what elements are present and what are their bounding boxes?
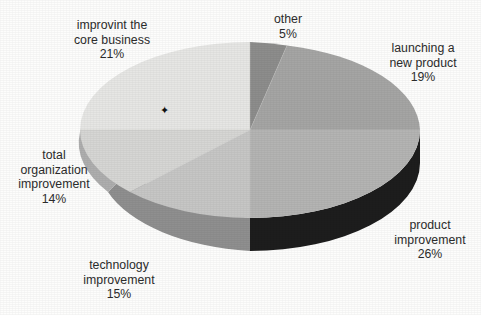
slice-percent: 14%: [0, 192, 110, 207]
slice-label-line1: technology: [52, 258, 186, 273]
slice-label-improvint-the-core-business: improvint the core business 21%: [42, 18, 182, 62]
slice-label-line1: improvint the: [42, 18, 182, 33]
slice-label-line1: total: [0, 148, 110, 163]
cursor-artifact-icon: ✦: [160, 106, 166, 115]
slice-label-line2: new product: [364, 56, 481, 71]
slice-label-launching-a-new-product: launching a new product 19%: [364, 41, 481, 85]
slice-label-line2: improvement: [52, 273, 186, 288]
slice-label-line2: core business: [42, 33, 182, 48]
slice-label-technology-improvement: technology improvement 15%: [52, 258, 186, 302]
slice-label-line3: improvement: [18, 177, 89, 191]
slice-label-line1: launching a: [364, 41, 481, 56]
slice-label-other: other 5%: [240, 12, 336, 41]
slice-label-line2: organization: [0, 163, 110, 178]
slice-percent: 26%: [378, 247, 481, 262]
slice-percent: 5%: [240, 27, 336, 42]
slice-percent: 21%: [42, 47, 182, 62]
slice-label-line1: product: [378, 218, 481, 233]
slice-label-total-organization-improvement: total organization improvement 14%: [0, 148, 110, 206]
slice-label-line1: other: [240, 12, 336, 27]
pie-chart-figure: ✦ improvint the core business 21% other …: [0, 0, 481, 315]
slice-percent: 15%: [52, 287, 186, 302]
slice-label-line2: improvement: [378, 233, 481, 248]
slice-label-product-improvement: product improvement 26%: [378, 218, 481, 262]
slice-percent: 19%: [364, 70, 481, 85]
